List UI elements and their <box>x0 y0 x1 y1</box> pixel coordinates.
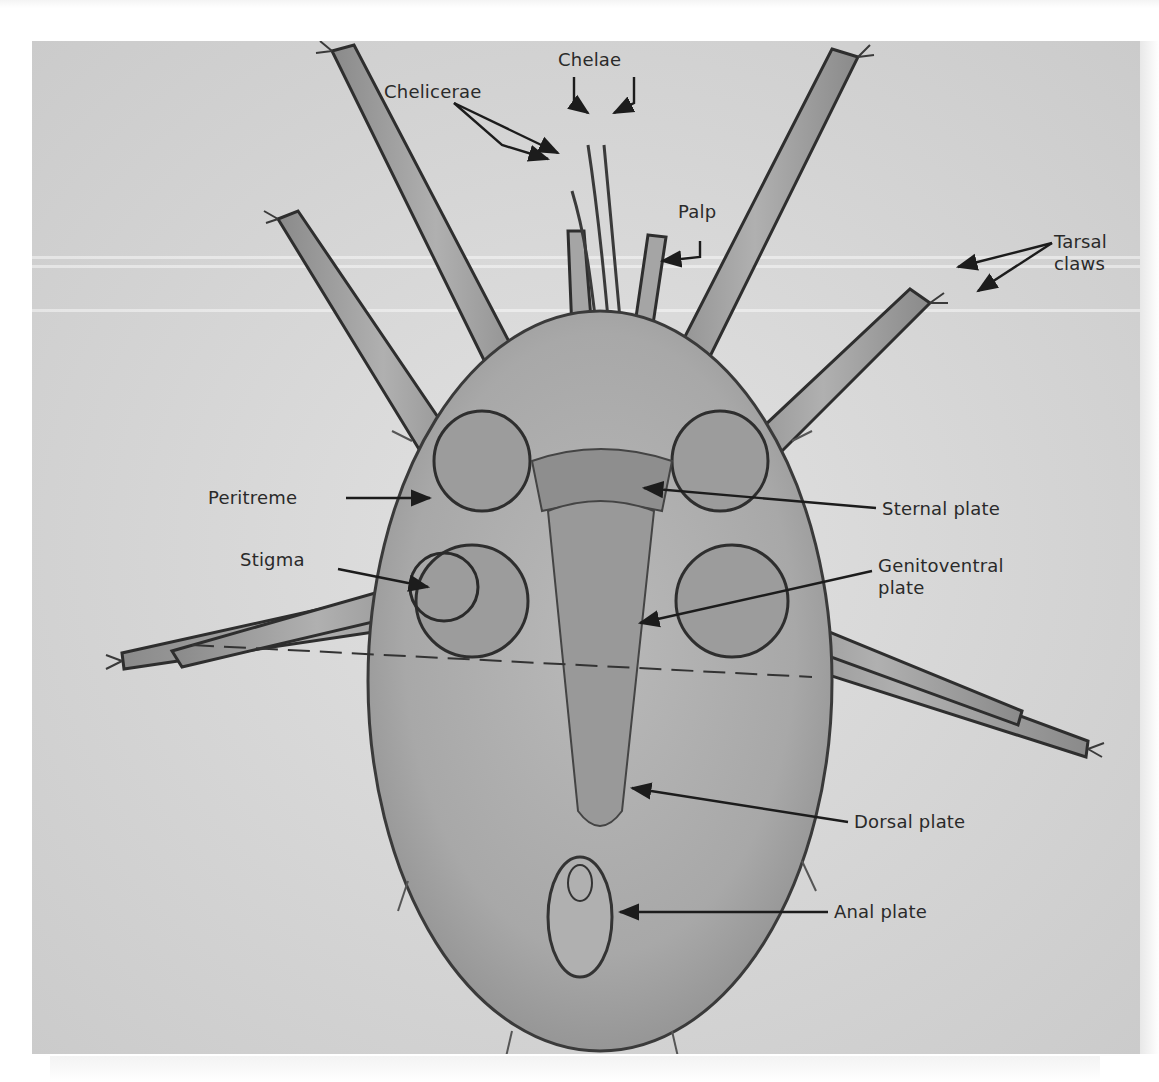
mite-specimen-illustration <box>32 41 1140 1054</box>
label-genitoventral-line2: plate <box>878 577 925 598</box>
mite-figure: Chelae Chelicerae Palp Tarsal claws Peri… <box>32 41 1140 1054</box>
label-stigma: Stigma <box>240 549 305 570</box>
page-bottom-ghost-text <box>50 1056 1100 1082</box>
label-palp: Palp <box>678 201 716 222</box>
page-top-edge <box>0 0 1159 8</box>
label-tarsal-claws-line2: claws <box>1054 253 1105 274</box>
label-sternal-plate: Sternal plate <box>882 498 1000 519</box>
figure-right-edge <box>1140 41 1159 1054</box>
label-dorsal-plate: Dorsal plate <box>854 811 965 832</box>
label-chelicerae: Chelicerae <box>384 81 482 102</box>
anal-plate-shape <box>548 857 612 977</box>
label-genitoventral-line1: Genitoventral <box>878 555 1004 576</box>
label-peritreme: Peritreme <box>208 487 297 508</box>
label-anal-plate: Anal plate <box>834 901 927 922</box>
label-tarsal-claws-line1: Tarsal <box>1054 231 1107 252</box>
label-chelae: Chelae <box>558 49 621 70</box>
